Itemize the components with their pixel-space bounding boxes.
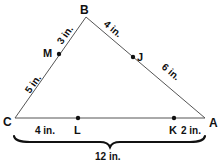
vertex-a-label: A bbox=[209, 116, 218, 130]
point-l-label: L bbox=[74, 124, 81, 136]
measure-ca-total: 12 in. bbox=[95, 151, 121, 162]
vertex-b-label: B bbox=[80, 3, 89, 17]
point-m-label: M bbox=[43, 47, 52, 59]
measure-ja: 6 in. bbox=[160, 61, 183, 82]
point-k-dot bbox=[172, 116, 176, 120]
brace-icon bbox=[14, 136, 205, 147]
measure-bm: 3 in. bbox=[55, 23, 76, 46]
point-k-label: K bbox=[169, 124, 177, 136]
measure-bj: 4 in. bbox=[102, 18, 125, 39]
side-ba bbox=[86, 17, 205, 118]
measure-ka: 2 in. bbox=[181, 125, 201, 136]
point-j-dot bbox=[131, 55, 135, 59]
vertex-c-label: C bbox=[3, 115, 12, 129]
triangle-diagram: B C A M J L K 3 in. 5 in. 4 in. 6 in. 4 … bbox=[0, 0, 222, 165]
side-cb bbox=[15, 17, 86, 118]
point-l-dot bbox=[76, 116, 80, 120]
measure-mc: 5 in. bbox=[23, 72, 44, 95]
point-j-label: J bbox=[137, 51, 143, 63]
point-m-dot bbox=[57, 52, 61, 56]
measure-cl: 4 in. bbox=[35, 125, 55, 136]
